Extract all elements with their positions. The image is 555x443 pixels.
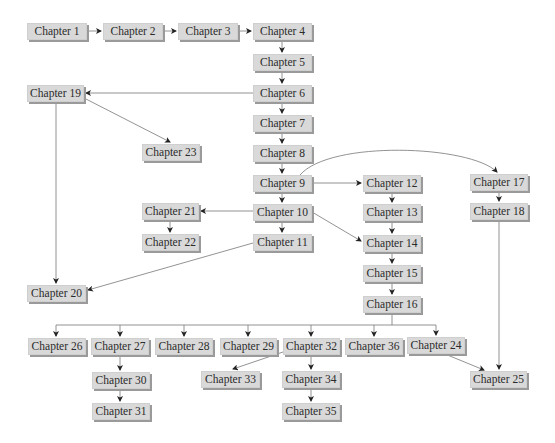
dependency-arrow xyxy=(300,150,497,175)
chapter-box-c27: Chapter 27 xyxy=(91,338,149,355)
chapter-box-c8: Chapter 8 xyxy=(253,145,312,162)
chapter-box-c10: Chapter 10 xyxy=(253,204,312,221)
chapter-box-c12: Chapter 12 xyxy=(363,175,421,192)
chapter-box-c29: Chapter 29 xyxy=(220,338,277,355)
chapter-box-c21: Chapter 21 xyxy=(142,203,199,220)
chapter-box-c20: Chapter 20 xyxy=(27,285,86,302)
chapter-box-c36: Chapter 36 xyxy=(345,338,403,355)
chapter-box-c32: Chapter 32 xyxy=(283,338,340,355)
chapter-box-c9: Chapter 9 xyxy=(253,175,312,192)
chapter-box-c6: Chapter 6 xyxy=(253,85,312,102)
dependency-arrow xyxy=(84,98,170,142)
dependency-arrow xyxy=(312,212,361,241)
chapter-box-c23: Chapter 23 xyxy=(142,144,200,161)
chapter-box-c16: Chapter 16 xyxy=(363,296,421,313)
chapter-box-c5: Chapter 5 xyxy=(253,54,312,71)
chapter-box-c28: Chapter 28 xyxy=(155,338,213,355)
dependency-arrow xyxy=(445,354,484,370)
chapter-box-c11: Chapter 11 xyxy=(253,234,312,251)
chapter-box-c18: Chapter 18 xyxy=(470,203,528,220)
chapter-box-c35: Chapter 35 xyxy=(282,403,340,420)
chapter-box-c19: Chapter 19 xyxy=(27,85,84,102)
chapter-box-c22: Chapter 22 xyxy=(142,234,199,251)
chapter-box-c1: Chapter 1 xyxy=(27,23,87,40)
chapter-box-c3: Chapter 3 xyxy=(178,23,238,40)
chapter-box-c4: Chapter 4 xyxy=(253,23,312,40)
chapter-box-c14: Chapter 14 xyxy=(363,235,421,252)
chapter-box-c31: Chapter 31 xyxy=(92,403,150,420)
chapter-box-c7: Chapter 7 xyxy=(253,115,312,132)
chapter-box-c25: Chapter 25 xyxy=(470,371,527,388)
chapter-box-c17: Chapter 17 xyxy=(470,174,528,191)
chapter-box-c26: Chapter 26 xyxy=(28,338,86,355)
chapter-box-c34: Chapter 34 xyxy=(282,371,340,388)
chapter-box-c30: Chapter 30 xyxy=(92,372,150,389)
chapter-box-c33: Chapter 33 xyxy=(201,371,260,388)
chapter-dependency-diagram: Chapter 1Chapter 2Chapter 3Chapter 4Chap… xyxy=(0,0,555,443)
chapter-box-c2: Chapter 2 xyxy=(103,23,163,40)
chapter-box-c15: Chapter 15 xyxy=(363,265,421,282)
chapter-box-c13: Chapter 13 xyxy=(363,204,421,221)
chapter-box-c24: Chapter 24 xyxy=(407,337,465,354)
